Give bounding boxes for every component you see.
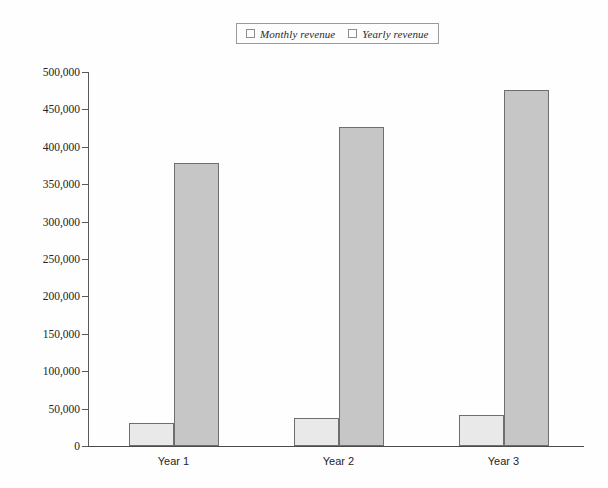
y-axis-tick-label: 150,000 bbox=[10, 328, 80, 340]
y-axis-tick-label: 300,000 bbox=[10, 216, 80, 228]
legend-item-monthly-revenue: Monthly revenue bbox=[246, 28, 335, 40]
legend-label-monthly: Monthly revenue bbox=[260, 28, 335, 40]
x-axis-label-year-3: Year 3 bbox=[488, 455, 519, 467]
y-axis-tick-label: 200,000 bbox=[10, 290, 80, 302]
bar-yearly-year-1 bbox=[174, 163, 219, 446]
bar-yearly-year-2 bbox=[339, 127, 384, 446]
plot-area bbox=[88, 72, 583, 446]
chart-legend: Monthly revenue Yearly revenue bbox=[236, 23, 439, 44]
bar-monthly-year-1 bbox=[129, 423, 174, 446]
x-axis-label-year-1: Year 1 bbox=[158, 455, 189, 467]
y-axis-tick bbox=[82, 446, 88, 447]
y-axis-tick-label: 100,000 bbox=[10, 365, 80, 377]
bar-chart-figure: Monthly revenue Yearly revenue 050,00010… bbox=[0, 0, 608, 488]
legend-swatch-icon-monthly bbox=[246, 29, 255, 38]
legend-swatch-icon-yearly bbox=[348, 29, 357, 38]
y-axis-tick-label: 450,000 bbox=[10, 103, 80, 115]
y-axis-tick-label: 500,000 bbox=[10, 66, 80, 78]
y-axis-tick-label: 250,000 bbox=[10, 253, 80, 265]
legend-label-yearly: Yearly revenue bbox=[362, 28, 428, 40]
bar-monthly-year-2 bbox=[294, 418, 339, 446]
bar-monthly-year-3 bbox=[459, 415, 504, 446]
legend-item-yearly-revenue: Yearly revenue bbox=[348, 28, 428, 40]
y-axis-tick-label: 0 bbox=[10, 440, 80, 452]
x-axis-label-year-2: Year 2 bbox=[323, 455, 354, 467]
bar-yearly-year-3 bbox=[504, 90, 549, 446]
y-axis-tick-label: 50,000 bbox=[10, 403, 80, 415]
x-axis-line bbox=[88, 446, 584, 447]
y-axis-tick-label: 350,000 bbox=[10, 178, 80, 190]
y-axis-tick-label: 400,000 bbox=[10, 141, 80, 153]
